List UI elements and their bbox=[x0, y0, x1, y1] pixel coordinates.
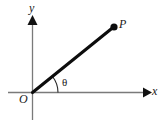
arrow-up-icon bbox=[28, 15, 38, 25]
arc-icon bbox=[53, 77, 59, 93]
filled-dot-icon bbox=[110, 23, 117, 30]
x-axis-label: x bbox=[152, 85, 157, 97]
ray-op-line bbox=[33, 28, 114, 93]
arrow-right-icon bbox=[143, 88, 152, 98]
coordinate-diagram: y x O P θ bbox=[0, 0, 165, 123]
point-p-label: P bbox=[119, 18, 126, 30]
origin-label: O bbox=[19, 93, 28, 105]
y-axis-label: y bbox=[29, 2, 34, 14]
angle-theta-label: θ bbox=[62, 77, 67, 88]
